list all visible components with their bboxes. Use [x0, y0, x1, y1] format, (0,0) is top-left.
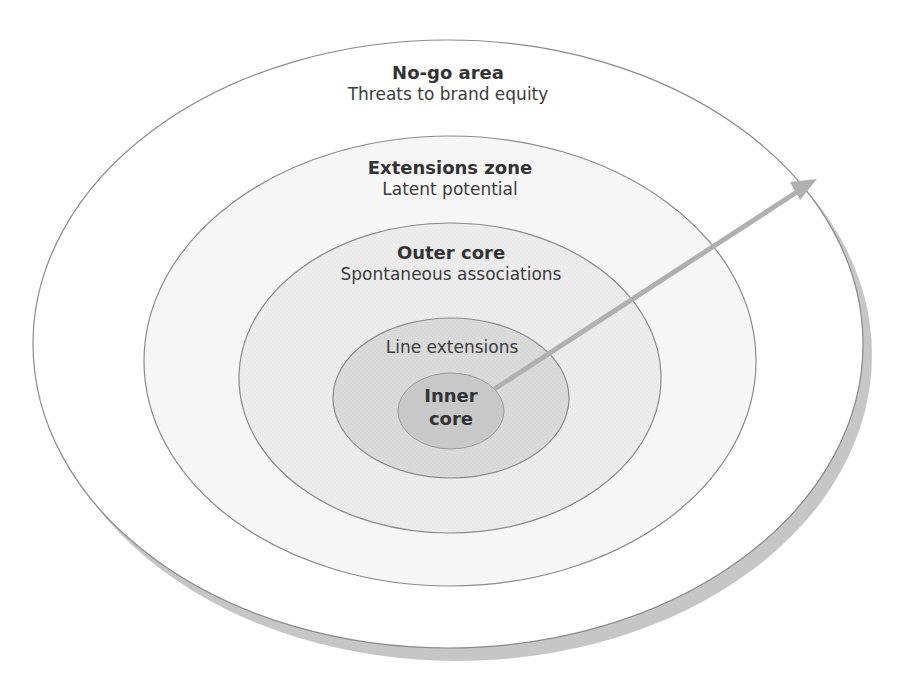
extensions-zone-subtitle: Latent potential — [368, 179, 532, 199]
line-extensions-text: Line extensions — [386, 337, 519, 357]
outer-core-title: Outer core — [341, 242, 562, 264]
inner-core-title-line2: core — [424, 408, 477, 431]
extensions-zone-title: Extensions zone — [368, 157, 532, 179]
no-go-area-title: No-go area — [348, 62, 549, 84]
line-extensions-label: Line extensions — [386, 337, 519, 357]
no-go-area-label: No-go area Threats to brand equity — [348, 62, 549, 104]
inner-core-title-line1: Inner — [424, 385, 477, 408]
extensions-zone-label: Extensions zone Latent potential — [368, 157, 532, 199]
no-go-area-subtitle: Threats to brand equity — [348, 84, 549, 104]
outer-core-subtitle: Spontaneous associations — [341, 264, 562, 284]
outer-core-label: Outer core Spontaneous associations — [341, 242, 562, 284]
inner-core-label: Inner core — [424, 385, 477, 430]
